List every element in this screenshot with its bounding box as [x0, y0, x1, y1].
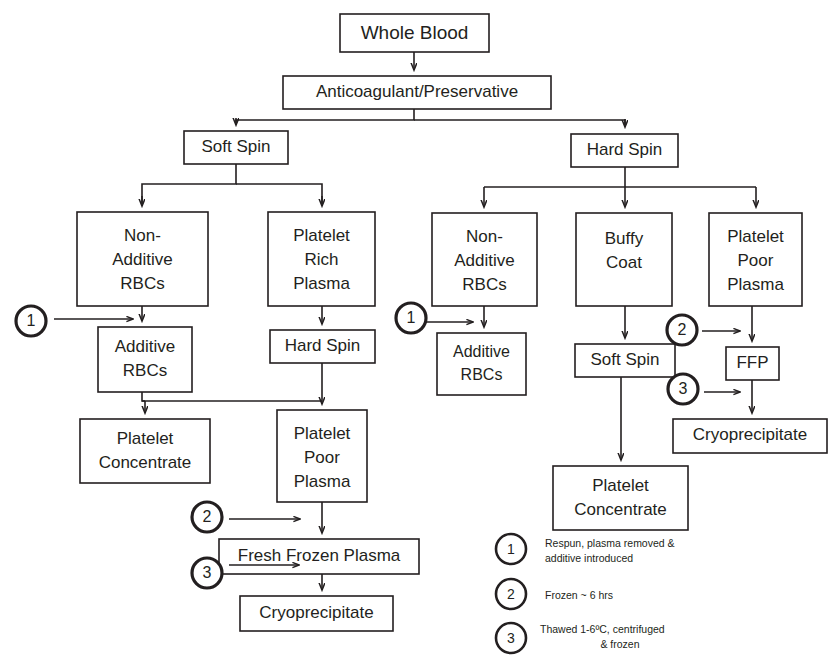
node-anticoagulant-preservative-label: Anticoagulant/Preservative	[316, 82, 518, 101]
callout-2-left-number: 2	[203, 508, 212, 525]
node-platelet-poor-plasma-left-line3: Plasma	[294, 472, 351, 491]
node-buffy-coat-line1: Buffy	[605, 229, 644, 248]
connector-soft-spin-split	[142, 164, 236, 205]
node-additive-rbcs-right-line1: Additive	[453, 343, 510, 360]
node-hard-spin-left-label: Hard Spin	[285, 336, 361, 355]
node-platelet-concentrate-right-line2: Concentrate	[574, 500, 667, 519]
legend-item-1-number: 1	[507, 541, 515, 557]
node-non-additive-rbcs-right-line3: RBCs	[462, 275, 506, 294]
node-platelet-poor-plasma-right-line2: Poor	[738, 251, 774, 270]
callout-1-right-number: 1	[407, 309, 416, 326]
node-non-additive-rbcs-left-line2: Additive	[112, 250, 172, 269]
node-cryoprecipitate-right[interactable]: Cryoprecipitate	[673, 419, 827, 453]
connector-soft-spin-split-right	[236, 184, 322, 205]
legend-item-2: 2 Frozen ~ 6 hrs	[496, 579, 613, 609]
callout-2-left[interactable]: 2	[192, 502, 300, 532]
node-non-additive-rbcs-left[interactable]: Non- Additive RBCs	[77, 212, 208, 306]
callout-3-right-number: 3	[679, 380, 688, 397]
node-buffy-coat[interactable]: Buffy Coat	[576, 213, 672, 306]
callout-1-left-number: 1	[27, 312, 36, 329]
node-platelet-rich-plasma-line2: Rich	[304, 250, 338, 269]
legend-item-3-line1: Thawed 1-6ºC, centrifuged	[540, 623, 665, 635]
legend: 1 Respun, plasma removed & additive intr…	[496, 534, 675, 653]
node-non-additive-rbcs-left-line3: RBCs	[120, 274, 164, 293]
node-platelet-concentrate-left-line1: Platelet	[117, 429, 174, 448]
node-ffp[interactable]: FFP	[726, 347, 779, 380]
node-hard-spin-right-label: Hard Spin	[587, 140, 663, 159]
node-platelet-poor-plasma-left[interactable]: Platelet Poor Plasma	[277, 410, 367, 502]
node-cryoprecipitate-right-label: Cryoprecipitate	[693, 425, 807, 444]
node-platelet-concentrate-right-line1: Platelet	[592, 476, 649, 495]
node-soft-spin-right[interactable]: Soft Spin	[575, 344, 675, 377]
node-platelet-concentrate-left-line2: Concentrate	[99, 453, 192, 472]
legend-item-3-number: 3	[507, 630, 515, 646]
node-cryoprecipitate-left-label: Cryoprecipitate	[259, 603, 373, 622]
node-fresh-frozen-plasma[interactable]: Fresh Frozen Plasma	[219, 539, 419, 574]
connector-additive-left-stem	[142, 392, 145, 401]
node-additive-rbcs-left[interactable]: Additive RBCs	[98, 327, 192, 392]
legend-item-3: 3 Thawed 1-6ºC, centrifuged & frozen	[496, 623, 665, 653]
node-platelet-poor-plasma-right-line1: Platelet	[727, 227, 784, 246]
legend-item-2-number: 2	[507, 586, 515, 602]
node-platelet-concentrate-left[interactable]: Platelet Concentrate	[80, 419, 210, 483]
legend-item-1-line2: additive introduced	[545, 552, 633, 564]
node-soft-spin-right-label: Soft Spin	[591, 350, 660, 369]
legend-item-2-line1: Frozen ~ 6 hrs	[545, 589, 613, 601]
blood-component-flowchart: Whole Blood Anticoagulant/Preservative S…	[0, 0, 836, 670]
callout-2-right[interactable]: 2	[667, 315, 740, 345]
node-platelet-rich-plasma-line1: Platelet	[293, 226, 350, 245]
node-platelet-rich-plasma[interactable]: Platelet Rich Plasma	[268, 212, 375, 306]
node-hard-spin-left[interactable]: Hard Spin	[270, 330, 375, 363]
node-additive-rbcs-left-line1: Additive	[115, 337, 175, 356]
node-whole-blood[interactable]: Whole Blood	[340, 14, 489, 52]
flowchart-page: Whole Blood Anticoagulant/Preservative S…	[0, 0, 836, 670]
node-cryoprecipitate-left[interactable]: Cryoprecipitate	[240, 596, 393, 631]
node-platelet-poor-plasma-right-line3: Plasma	[727, 275, 784, 294]
node-soft-spin-left-label: Soft Spin	[202, 137, 271, 156]
legend-item-3-line2: & frozen	[600, 638, 639, 650]
node-platelet-poor-plasma-right[interactable]: Platelet Poor Plasma	[709, 213, 802, 306]
node-soft-spin-left[interactable]: Soft Spin	[184, 131, 288, 164]
node-ffp-label: FFP	[736, 353, 768, 372]
node-buffy-coat-line2: Coat	[606, 253, 642, 272]
callout-1-right[interactable]: 1	[396, 303, 473, 333]
connector-anticoagulant-split	[236, 109, 414, 125]
node-hard-spin-right[interactable]: Hard Spin	[571, 134, 678, 167]
node-additive-rbcs-right-line2: RBCs	[461, 366, 503, 383]
node-platelet-concentrate-right[interactable]: Platelet Concentrate	[553, 466, 688, 530]
connector-anticoagulant-split-right	[414, 120, 625, 127]
legend-item-1-line1: Respun, plasma removed &	[545, 537, 675, 549]
node-platelet-rich-plasma-line3: Plasma	[293, 274, 350, 293]
callout-2-right-number: 2	[678, 321, 687, 338]
node-non-additive-rbcs-right-line1: Non-	[466, 227, 503, 246]
node-non-additive-rbcs-right[interactable]: Non- Additive RBCs	[432, 213, 537, 306]
node-non-additive-rbcs-left-line1: Non-	[124, 226, 161, 245]
node-whole-blood-label: Whole Blood	[361, 22, 469, 43]
node-additive-rbcs-right[interactable]: Additive RBCs	[437, 333, 526, 395]
legend-item-1: 1 Respun, plasma removed & additive intr…	[496, 534, 675, 564]
node-non-additive-rbcs-right-line2: Additive	[454, 251, 514, 270]
callout-3-left-number: 3	[203, 564, 212, 581]
node-anticoagulant-preservative[interactable]: Anticoagulant/Preservative	[283, 76, 551, 109]
node-platelet-poor-plasma-left-line1: Platelet	[294, 424, 351, 443]
node-fresh-frozen-plasma-label: Fresh Frozen Plasma	[238, 546, 401, 565]
node-additive-rbcs-left-line2: RBCs	[123, 361, 167, 380]
node-platelet-poor-plasma-left-line2: Poor	[304, 448, 340, 467]
